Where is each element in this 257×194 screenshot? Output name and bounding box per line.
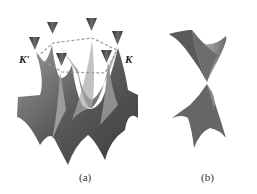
panel-b: (b) [169, 30, 226, 184]
panel-b-label: (b) [201, 171, 214, 184]
dirac-cone [101, 50, 112, 63]
panel-a: K' K (a) [17, 18, 138, 184]
dirac-cone [112, 31, 123, 45]
figure: K' K (a) (b) [0, 0, 257, 194]
k-label: K [124, 53, 133, 65]
valence-band-cone [172, 84, 226, 148]
panel-a-label: (a) [79, 171, 92, 184]
dirac-cone [47, 22, 58, 34]
k-prime-label: K' [18, 53, 29, 65]
dirac-cone [29, 37, 40, 50]
dirac-cone [86, 18, 97, 31]
dirac-cone [56, 53, 67, 66]
